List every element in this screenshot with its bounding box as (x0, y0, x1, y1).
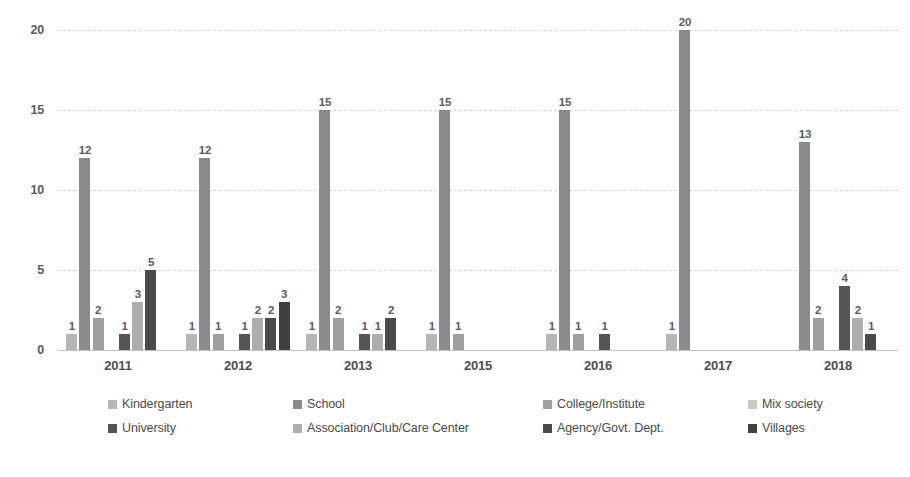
legend-swatch-icon (748, 400, 757, 409)
bar: 1 (119, 334, 130, 350)
bar-value-label: 2 (335, 304, 341, 316)
bar: 1 (372, 334, 383, 350)
bar-value-label: 1 (121, 320, 127, 332)
bar-value-label: 1 (669, 320, 675, 332)
bar: 1 (306, 334, 317, 350)
legend-item[interactable]: College/Institute (543, 397, 748, 411)
legend-swatch-icon (293, 424, 302, 433)
bar: 1 (186, 334, 197, 350)
bar-value-label: 2 (255, 304, 261, 316)
bar-value-label: 13 (799, 128, 811, 140)
bar-group: 120 (665, 30, 771, 350)
legend-label: Association/Club/Care Center (307, 421, 469, 435)
bar: 2 (252, 318, 263, 350)
legend-swatch-icon (543, 400, 552, 409)
legend-label: University (122, 421, 176, 435)
legend-swatch-icon (748, 424, 757, 433)
bar-value-label: 1 (69, 320, 75, 332)
bar: 1 (599, 334, 610, 350)
y-tick-label: 10 (4, 183, 44, 197)
bar-value-label: 2 (815, 304, 821, 316)
bar-value-label: 1 (549, 320, 555, 332)
bar-value-label: 1 (868, 320, 874, 332)
bar: 3 (132, 302, 143, 350)
plot-area: 1122135112112231152112115111511120132421 (58, 30, 898, 350)
x-axis-label: 2018 (824, 358, 852, 373)
bar: 12 (79, 158, 90, 350)
bar-value-label: 1 (189, 320, 195, 332)
bar: 13 (799, 142, 810, 350)
bar-value-label: 12 (199, 144, 211, 156)
bar-value-label: 1 (575, 320, 581, 332)
y-tick-label: 5 (4, 263, 44, 277)
bar: 5 (145, 270, 156, 350)
bar: 3 (279, 302, 290, 350)
bar: 1 (66, 334, 77, 350)
legend-label: Mix society (762, 397, 823, 411)
bar-value-label: 15 (559, 96, 571, 108)
x-axis-label: 2015 (464, 358, 492, 373)
legend-swatch-icon (108, 424, 117, 433)
gridline-0 (58, 350, 898, 351)
legend-item[interactable]: Association/Club/Care Center (293, 421, 543, 435)
legend-swatch-icon (108, 400, 117, 409)
x-axis-label: 2012 (224, 358, 252, 373)
legend-swatch-icon (543, 424, 552, 433)
legend-item[interactable]: Mix society (748, 397, 898, 411)
bar-value-label: 2 (388, 304, 394, 316)
legend-item[interactable]: University (108, 421, 293, 435)
bar: 1 (213, 334, 224, 350)
bar: 1 (573, 334, 584, 350)
bar-value-label: 5 (148, 256, 154, 268)
bar-value-label: 3 (281, 288, 287, 300)
legend-label: Villages (762, 421, 805, 435)
bar-value-label: 1 (601, 320, 607, 332)
bar: 1 (453, 334, 464, 350)
bar-group: 132421 (785, 30, 891, 350)
legend-item[interactable]: Agency/Govt. Dept. (543, 421, 748, 435)
bar: 12 (199, 158, 210, 350)
bar-value-label: 15 (319, 96, 331, 108)
chart-legend: KindergartenSchoolCollege/InstituteMix s… (108, 392, 898, 440)
bar: 2 (813, 318, 824, 350)
legend-item[interactable]: Villages (748, 421, 898, 435)
x-axis-label: 2011 (104, 358, 131, 373)
bar-group: 11511 (545, 30, 651, 350)
x-axis-label: 2013 (344, 358, 372, 373)
bar: 4 (839, 286, 850, 350)
bar: 1 (359, 334, 370, 350)
y-tick-label: 15 (4, 103, 44, 117)
bar: 2 (333, 318, 344, 350)
bar: 2 (93, 318, 104, 350)
bar-group: 11211223 (185, 30, 291, 350)
bar-value-label: 2 (268, 304, 274, 316)
bar-value-label: 20 (679, 16, 691, 28)
bar: 2 (265, 318, 276, 350)
legend-label: College/Institute (557, 397, 645, 411)
bar-value-label: 2 (95, 304, 101, 316)
bar: 15 (439, 110, 450, 350)
bar: 15 (319, 110, 330, 350)
x-axis-label: 2017 (704, 358, 732, 373)
bar: 1 (426, 334, 437, 350)
bar-group: 1152112 (305, 30, 411, 350)
legend-item[interactable]: Kindergarten (108, 397, 293, 411)
bar: 15 (559, 110, 570, 350)
bar: 1 (666, 334, 677, 350)
bar-value-label: 1 (309, 320, 315, 332)
bar-value-label: 1 (429, 320, 435, 332)
bar: 20 (679, 30, 690, 350)
bar: 1 (239, 334, 250, 350)
bar-value-label: 1 (375, 320, 381, 332)
bar-chart: 1122135112112231152112115111511120132421… (0, 0, 910, 477)
bar: 2 (852, 318, 863, 350)
y-tick-label: 0 (4, 343, 44, 357)
y-tick-label: 20 (4, 23, 44, 37)
legend-item[interactable]: School (293, 397, 543, 411)
bar-value-label: 15 (439, 96, 451, 108)
bar-value-label: 1 (215, 320, 221, 332)
bar-value-label: 4 (841, 272, 847, 284)
legend-label: Agency/Govt. Dept. (557, 421, 664, 435)
bar-value-label: 12 (79, 144, 91, 156)
bar: 1 (865, 334, 876, 350)
